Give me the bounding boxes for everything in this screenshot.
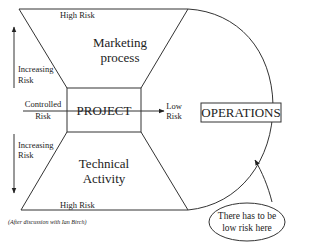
technical-label-line2: Activity bbox=[83, 171, 126, 186]
callout-line1: There has to be bbox=[218, 211, 276, 221]
callout-line2: low risk here bbox=[222, 223, 272, 233]
lower-increasing-risk-line1: Increasing bbox=[18, 140, 54, 150]
project-label: PROJECT bbox=[77, 103, 132, 118]
controlled-risk-line1: Controlled bbox=[25, 99, 62, 109]
marketing-label-line1: Marketing bbox=[93, 35, 148, 50]
project-risk-diagram: High Risk Marketing process Increasing R… bbox=[0, 0, 309, 243]
top-high-risk-label: High Risk bbox=[60, 10, 95, 20]
low-risk-line2: Risk bbox=[166, 111, 182, 121]
controlled-risk-line2: Risk bbox=[35, 111, 51, 121]
footnote: (After discussion with Ian Birch) bbox=[8, 219, 86, 226]
operations-label: OPERATIONS bbox=[201, 105, 280, 120]
upper-increasing-risk-line1: Increasing bbox=[18, 64, 54, 74]
lower-increasing-risk-line2: Risk bbox=[18, 150, 34, 160]
low-risk-line1: Low bbox=[166, 101, 182, 111]
technical-label-line1: Technical bbox=[79, 156, 130, 171]
marketing-label-line2: process bbox=[101, 50, 140, 65]
upper-increasing-risk-line2: Risk bbox=[18, 75, 34, 85]
bottom-high-risk-label: High Risk bbox=[60, 200, 95, 210]
callout-pointer-arrow bbox=[255, 160, 272, 202]
callout-ellipse bbox=[209, 203, 285, 241]
